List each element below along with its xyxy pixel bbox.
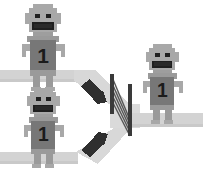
figure-leg-right <box>165 109 171 122</box>
figure-leg-right <box>46 75 53 89</box>
figure-head <box>27 88 60 117</box>
figure-eye-right <box>165 53 170 57</box>
illustration-canvas: 1 <box>0 0 203 175</box>
figure-eye-right <box>46 97 51 101</box>
figure-leg-right <box>46 153 52 166</box>
figure-leg-left <box>33 75 40 89</box>
figure-eye-left <box>155 53 160 57</box>
figure-jersey-number: 1 <box>157 80 168 101</box>
figure-eye-left <box>36 97 41 101</box>
figure-right: 1 <box>143 44 183 124</box>
figure-jersey-number: 1 <box>38 124 49 145</box>
figure-leg-left <box>34 153 40 166</box>
gate-post-right <box>128 84 132 136</box>
figure-eye-left <box>35 14 40 18</box>
figure-jersey-number: 1 <box>37 44 49 67</box>
scene-svg: 1 <box>0 0 203 175</box>
figure-head <box>25 4 61 36</box>
figure-head <box>146 44 179 73</box>
figure-eye-right <box>46 14 51 18</box>
gate-post-left <box>110 74 114 114</box>
figure-leg-left <box>153 109 159 122</box>
